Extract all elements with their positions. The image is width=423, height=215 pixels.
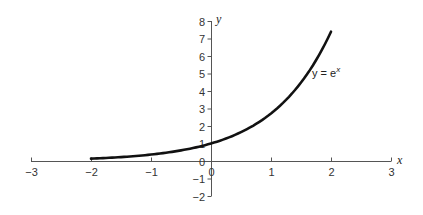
curve-label-superscript: x <box>335 65 341 74</box>
x-tick-label: −2 <box>85 166 98 178</box>
x-tick-label: 3 <box>388 166 394 178</box>
x-tick-label: 2 <box>328 166 334 178</box>
x-tick-label: −1 <box>145 166 158 178</box>
y-tick-label: 2 <box>199 121 205 133</box>
x-axis-label: x <box>396 153 403 167</box>
y-tick-label: 4 <box>199 86 205 98</box>
y-tick-label: −2 <box>192 191 205 203</box>
curve-label: y = ex <box>312 65 341 79</box>
y-tick-label: 1 <box>199 138 205 150</box>
y-tick-label: 3 <box>199 103 205 115</box>
ticks: −3−2−10123−2−1012345678 <box>25 16 394 203</box>
y-tick-label: 7 <box>199 33 205 45</box>
y-tick-label: 5 <box>199 68 205 80</box>
exponential-function-chart: −3−2−10123−2−1012345678 x y y = ex <box>0 0 423 215</box>
x-tick-label: 0 <box>208 166 214 178</box>
x-tick-label: −3 <box>25 166 38 178</box>
y-tick-label: 8 <box>199 16 205 28</box>
curve-label-main: y = e <box>312 67 336 79</box>
y-axis-label: y <box>215 12 222 26</box>
y-tick-label: −1 <box>192 173 205 185</box>
y-tick-label: 0 <box>199 156 205 168</box>
x-tick-label: 1 <box>268 166 274 178</box>
y-tick-label: 6 <box>199 51 205 63</box>
